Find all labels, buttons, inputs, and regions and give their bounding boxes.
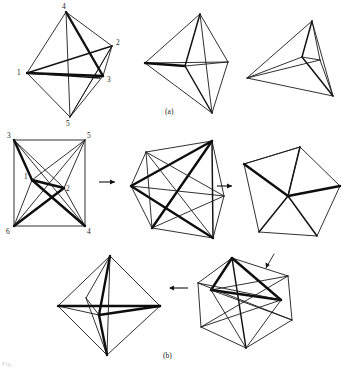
shape-collapsed-octahedron [145,14,228,113]
shape-pentagonal-wheel [244,147,340,236]
vertex-label: 5 [87,131,91,140]
geometry-figure: 4 2 1 3 5 (a) [0,0,346,368]
shape-hexagonal-intermediate [131,141,224,238]
caption-a: (a) [165,107,174,116]
shape-hexagon-with-crossings [198,254,292,348]
vertex-label: 3 [107,75,111,84]
footer-fragment: Fig. [2,361,13,367]
vertex-label: 3 [7,131,11,140]
figure-root: 4 2 1 3 5 (a) [0,0,346,368]
vertex-label: 1 [17,68,21,77]
vertex-label: 2 [116,38,120,47]
vertex-label: 6 [6,227,10,236]
shape-labeled-square-graph: 3 5 1 2 6 4 [6,131,91,236]
caption-b: (b) [163,351,172,360]
arrow-right-1-icon [99,180,115,185]
vertex-label: 2 [66,184,70,193]
vertex-label: 4 [62,2,66,11]
vertex-label: 1 [24,172,28,181]
vertex-label: 4 [87,227,91,236]
shape-labeled-octahedron: 4 2 1 3 5 [17,2,120,128]
arrow-left-1-icon [169,286,188,291]
shape-octahedron-final [58,256,160,355]
vertex-label: 5 [66,119,70,128]
arrow-right-2-icon [217,184,232,189]
shape-tetrahedron-right [247,21,333,96]
